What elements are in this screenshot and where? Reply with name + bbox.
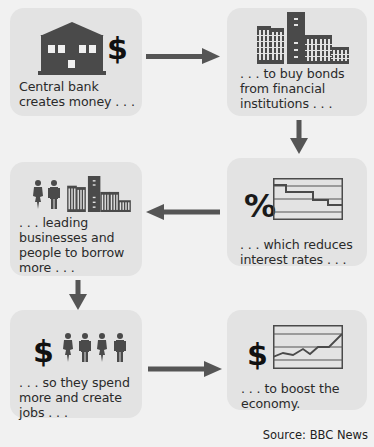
people-icon — [32, 180, 62, 210]
office-buildings-icon — [257, 12, 349, 64]
arrow-right-icon — [148, 361, 222, 377]
office-buildings-icon — [67, 176, 131, 212]
declining-rate-chart-icon — [273, 178, 343, 220]
step-4-caption: . . . leading businesses and people to b… — [19, 215, 124, 275]
dollar-icon: $ — [107, 34, 128, 64]
step-2-caption: . . . to buy bonds from financial instit… — [240, 66, 345, 111]
bank-building-icon — [38, 20, 106, 76]
step-1-caption: Central bank creates money . . . — [19, 79, 135, 109]
rising-line-chart-icon — [273, 325, 343, 369]
dollar-icon: $ — [33, 337, 54, 367]
step-3-caption: . . . which reduces interest rates . . . — [240, 237, 353, 267]
arrow-down-icon — [69, 280, 87, 310]
percent-icon: % — [244, 190, 276, 222]
step-6-caption: . . . to boost the economy. — [241, 381, 339, 411]
arrow-left-icon — [146, 204, 220, 220]
dollar-icon: $ — [247, 340, 268, 370]
people-icon — [62, 333, 130, 363]
arrow-down-icon — [290, 120, 308, 154]
step-5-caption: . . . so they spend more and create jobs… — [19, 375, 130, 420]
qe-flow-diagram: $ Central bank creates money . . . — [0, 0, 374, 447]
source-credit: Source: BBC News — [263, 428, 368, 442]
arrow-right-icon — [146, 48, 220, 64]
